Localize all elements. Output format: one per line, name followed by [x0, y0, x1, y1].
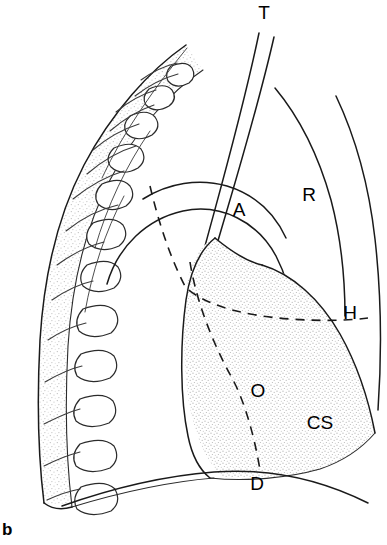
trachea-tube [205, 33, 274, 258]
vertebral-bodies-group [74, 63, 194, 514]
label-cardiac-silhouette: CS [307, 412, 333, 433]
label-trachea: T [258, 2, 270, 23]
label-oesophagus: O [251, 380, 266, 401]
label-hilum: H [343, 302, 357, 323]
chest-radiograph-diagram: T A R H O CS D [0, 0, 387, 545]
figure-root: T A R H O CS D b [0, 0, 387, 545]
panel-letter: b [2, 521, 12, 538]
label-right-lung: R [302, 184, 316, 205]
label-aortic-arch: A [233, 199, 246, 220]
label-diaphragm: D [250, 473, 264, 494]
